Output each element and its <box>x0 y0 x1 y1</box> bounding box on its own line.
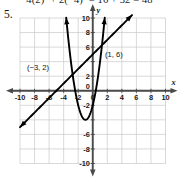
y-tick-label: 8 <box>86 28 90 37</box>
x-tick-label: 6 <box>134 93 138 102</box>
x-tick-label: -8 <box>31 93 38 102</box>
coordinate-plot: -10-8-6-4-2024681010862-2-6-8-100 xy (−3… <box>0 0 179 177</box>
y-tick-label: -2 <box>83 101 90 110</box>
x-axis-letter: x <box>170 78 175 87</box>
y-axis-letter: y <box>95 6 100 15</box>
origin-label: 0 <box>86 82 90 91</box>
y-tick-label: -8 <box>83 145 90 154</box>
x-tick-label: 10 <box>161 93 169 102</box>
axes <box>6 4 178 177</box>
point-annotation: (−3, 2) <box>27 63 50 72</box>
x-tick-label: -10 <box>15 93 26 102</box>
point-labels: (−3, 2)(1, 6) <box>27 50 123 72</box>
x-tick-label: -4 <box>60 93 67 102</box>
y-tick-label: 6 <box>86 43 90 52</box>
y-tick-label: -10 <box>79 159 90 168</box>
point-annotation: (1, 6) <box>105 50 123 59</box>
x-tick-label: 2 <box>105 93 109 102</box>
y-tick-label: -6 <box>83 130 90 139</box>
x-tick-label: 4 <box>120 93 125 102</box>
y-tick-label: 10 <box>82 14 90 23</box>
x-tick-label: 8 <box>149 93 153 102</box>
y-tick-label: 2 <box>86 72 90 81</box>
math-figure: 4(2)² + 2(−4)² = 16 + 32 = 48 5. -10-8-6… <box>0 0 179 177</box>
